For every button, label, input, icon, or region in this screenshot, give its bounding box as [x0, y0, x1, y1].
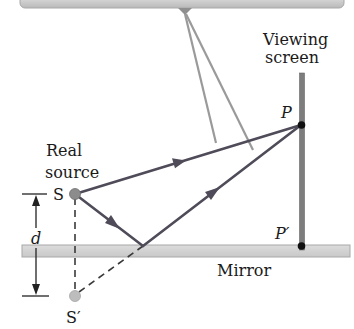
real-source-label-2: source [45, 163, 99, 182]
real-source-label-1: Real [46, 141, 82, 160]
real-source-dot [70, 189, 81, 200]
image-source-dot [70, 291, 81, 302]
arrow-down-icon [32, 284, 40, 295]
arm-left [185, 14, 216, 143]
viewing-screen [300, 73, 305, 250]
arm-right [186, 14, 253, 150]
point-p-prime [298, 242, 306, 250]
mirror-label: Mirror [217, 261, 271, 280]
ray-arrows [105, 158, 220, 229]
direct-ray [75, 125, 301, 194]
support-arms [185, 14, 253, 150]
viewing-screen-label-2: screen [265, 48, 319, 67]
arrow-up-icon [32, 195, 40, 206]
separation-label: d [31, 229, 41, 248]
image-source-label: S′ [66, 308, 81, 327]
point-p-label: P [280, 103, 292, 122]
pivot-icon [178, 8, 192, 15]
point-p-prime-label: P′ [274, 224, 290, 243]
lloyds-mirror-diagram: Viewing screen Real source S S′ P P′ d M… [0, 0, 354, 329]
point-p [298, 121, 306, 129]
viewing-screen-label-1: Viewing [262, 30, 328, 49]
source-label: S [53, 185, 64, 204]
rays [75, 125, 301, 246]
top-support-bar [20, 0, 344, 15]
